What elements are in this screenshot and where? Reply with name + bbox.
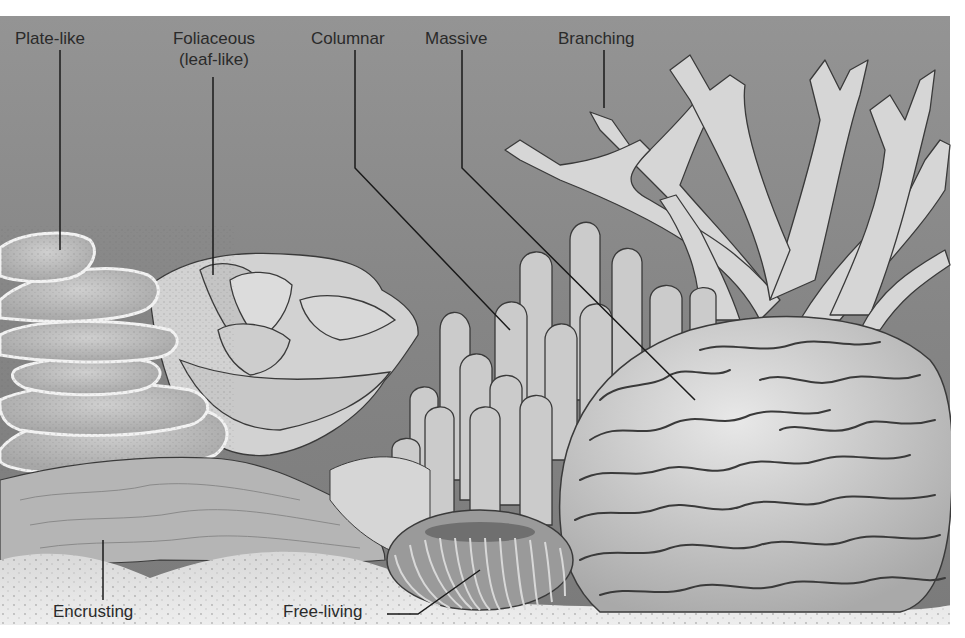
free-living-coral <box>387 510 573 610</box>
coral-growth-forms-diagram: Plate-like Foliaceous (leaf-like) Column… <box>0 0 965 638</box>
label-branching: Branching <box>558 28 635 49</box>
right-margin <box>951 0 965 638</box>
label-massive: Massive <box>425 28 487 49</box>
illustration <box>0 0 965 638</box>
label-foliaceous: Foliaceous (leaf-like) <box>163 28 265 70</box>
top-margin <box>0 0 965 16</box>
label-foliaceous-line1: Foliaceous <box>163 28 265 49</box>
label-plate-like: Plate-like <box>15 28 85 49</box>
label-columnar: Columnar <box>311 28 385 49</box>
label-foliaceous-line2: (leaf-like) <box>163 49 265 70</box>
bottom-margin <box>0 625 965 638</box>
label-encrusting: Encrusting <box>53 601 133 622</box>
plate-like-coral <box>0 225 235 475</box>
label-free-living: Free-living <box>283 601 362 622</box>
